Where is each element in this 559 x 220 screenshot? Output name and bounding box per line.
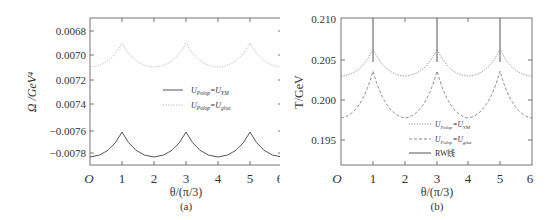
panel-b-series-glue-curve xyxy=(341,71,532,118)
x-tick-label: 4 xyxy=(215,171,222,186)
x-tick-label: 5 xyxy=(497,171,504,186)
panel-b-rw-lines xyxy=(373,18,500,62)
y-tick-label: 0.0074 xyxy=(56,98,87,110)
panel-a-plot-frame xyxy=(90,18,280,165)
y-tick-label: −0.0076 xyxy=(50,125,87,137)
panel-a-chart: 0.0068 0.0070 0.0072 0.0074 −0.0076 −0.0… xyxy=(0,0,280,220)
y-tick-label: −0.0078 xyxy=(50,147,87,159)
y-tick-label: 0.205 xyxy=(311,54,336,66)
x-tick-label: 3 xyxy=(434,171,441,186)
x-tick-label: 4 xyxy=(465,171,472,186)
panel-a-y-tick-labels: 0.0068 0.0070 0.0072 0.0074 −0.0076 −0.0… xyxy=(50,25,87,159)
y-tick-label: 0.0068 xyxy=(56,25,87,37)
panel-b-x-tick-labels: O 1 2 3 4 5 6 xyxy=(332,171,533,186)
x-tick-label: 1 xyxy=(119,171,126,186)
panel-a-series-ym-curve xyxy=(90,132,280,157)
x-tick-label: 1 xyxy=(370,171,377,186)
x-tick-label: 2 xyxy=(402,171,409,186)
x-tick-label: 2 xyxy=(151,171,158,186)
panel-b-y-tick-labels: 0.210 0.205 0.200 0.195 xyxy=(311,13,336,146)
panel-a-series-glue-curve xyxy=(90,43,280,67)
legend-entry-rw: RW线 xyxy=(435,148,455,158)
panel-a-legend: UPolop=UYM UPolop=Uglue xyxy=(163,86,231,111)
x-tick-label: 3 xyxy=(183,171,190,186)
panel-a-x-tick-labels: O 1 2 3 4 5 6 xyxy=(84,171,280,186)
y-tick-label: 0.195 xyxy=(311,134,336,146)
x-tick-label: O xyxy=(332,171,342,186)
panel-a-x-axis-label: θ/(π/3) xyxy=(170,185,202,199)
panel-b-label: (b) xyxy=(431,200,444,213)
panel-a-label: (a) xyxy=(180,200,193,213)
y-tick-label: 0.0070 xyxy=(56,49,87,61)
y-tick-label: 0.200 xyxy=(311,94,336,106)
x-tick-label: O xyxy=(84,171,94,186)
panel-b-legend: UPolop=UYM UPolop=Uglue RW线 xyxy=(409,120,472,158)
y-tick-label: 0.210 xyxy=(311,13,336,25)
y-tick-label: 0.0072 xyxy=(56,74,86,86)
legend-entry-ym: UPolop=UYM xyxy=(435,120,471,130)
legend-entry-glue: UPolop=Uglue xyxy=(191,101,231,111)
panel-b-chart: 0.210 0.205 0.200 0.195 O 1 2 3 4 5 6 θ/… xyxy=(280,0,559,220)
x-tick-label: 5 xyxy=(247,171,254,186)
x-tick-label: 6 xyxy=(527,171,534,186)
panel-a-x-ticks xyxy=(122,18,250,165)
panel-b-x-axis-label: θ/(π/3) xyxy=(421,185,453,199)
panel-b-y-axis-label: T/GeV xyxy=(292,75,306,109)
legend-entry-glue: UPolop=Uglue xyxy=(435,135,472,145)
legend-entry-ym: UPolop=UYM xyxy=(191,86,229,96)
panel-a-y-axis-label: Ω /GeV⁴ xyxy=(25,72,39,113)
